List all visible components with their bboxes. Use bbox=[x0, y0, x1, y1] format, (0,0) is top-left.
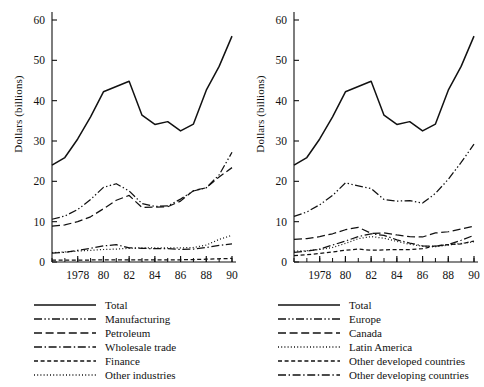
legend-label: Other developed countries bbox=[340, 354, 465, 368]
plot-area-left: 01020304050601978808284868890 bbox=[0, 0, 242, 292]
y-tick-label: 20 bbox=[34, 175, 46, 187]
legend-item: Finance bbox=[34, 354, 242, 368]
x-tick-label: 1978 bbox=[66, 269, 89, 281]
y-tick-label: 40 bbox=[276, 95, 288, 107]
y-tick-label: 20 bbox=[276, 175, 288, 187]
legend-label: Total bbox=[96, 298, 127, 312]
x-tick-label: 86 bbox=[175, 269, 187, 281]
x-tick-label: 86 bbox=[417, 269, 429, 281]
legend-label: Wholesale trade bbox=[96, 340, 176, 354]
legend-item: Latin America bbox=[278, 340, 484, 354]
legend-label: Other industries bbox=[96, 368, 176, 382]
y-tick-label: 0 bbox=[39, 256, 45, 268]
y-tick-label: 10 bbox=[34, 216, 46, 228]
legend-swatch bbox=[34, 298, 96, 312]
plot-area-right: 01020304050601978808284868890 bbox=[242, 0, 484, 292]
y-tick-label: 30 bbox=[276, 135, 288, 147]
legend-item: Europe bbox=[278, 312, 484, 326]
series-line bbox=[52, 168, 232, 226]
legend-left: TotalManufacturingPetroleumWholesale tra… bbox=[34, 298, 242, 382]
legend-label: Total bbox=[340, 298, 371, 312]
x-tick-label: 88 bbox=[443, 269, 455, 281]
legend-item: Wholesale trade bbox=[34, 340, 242, 354]
legend-swatch bbox=[34, 368, 96, 382]
x-tick-label: 84 bbox=[149, 269, 161, 281]
y-tick-label: 0 bbox=[281, 256, 287, 268]
y-tick-label: 30 bbox=[34, 135, 46, 147]
legend-item: Canada bbox=[278, 326, 484, 340]
x-tick-label: 90 bbox=[468, 269, 480, 281]
legend-label: Latin America bbox=[340, 340, 412, 354]
legend-item: Other developing countries bbox=[278, 368, 484, 382]
legend-swatch bbox=[278, 354, 340, 368]
x-tick-label: 84 bbox=[391, 269, 403, 281]
y-tick-label: 10 bbox=[276, 216, 288, 228]
legend-label: Canada bbox=[340, 326, 382, 340]
legend-item: Other developed countries bbox=[278, 354, 484, 368]
x-tick-label: 82 bbox=[123, 269, 135, 281]
x-tick-label: 80 bbox=[340, 269, 352, 281]
series-line bbox=[294, 36, 474, 165]
x-tick-label: 80 bbox=[98, 269, 110, 281]
legend-label: Petroleum bbox=[96, 326, 150, 340]
legend-swatch bbox=[278, 368, 340, 382]
y-tick-label: 50 bbox=[276, 54, 288, 66]
legend-swatch bbox=[278, 298, 340, 312]
legend-label: Finance bbox=[96, 354, 140, 368]
series-line bbox=[294, 237, 474, 252]
legend-item: Petroleum bbox=[34, 326, 242, 340]
legend-label: Europe bbox=[340, 312, 381, 326]
series-line bbox=[294, 241, 474, 256]
series-line bbox=[52, 36, 232, 165]
y-tick-label: 60 bbox=[276, 14, 288, 26]
y-tick-label: 50 bbox=[34, 54, 46, 66]
series-line bbox=[52, 235, 232, 252]
legend-swatch bbox=[278, 312, 340, 326]
chart-panel-right: Dollars (billions) 010203040506019788082… bbox=[242, 0, 484, 387]
legend-swatch bbox=[34, 312, 96, 326]
series-line bbox=[294, 226, 474, 239]
x-tick-label: 82 bbox=[365, 269, 377, 281]
legend-swatch bbox=[34, 326, 96, 340]
legend-right: TotalEuropeCanadaLatin AmericaOther deve… bbox=[278, 298, 484, 382]
series-line bbox=[52, 152, 232, 219]
legend-item: Total bbox=[34, 298, 242, 312]
legend-item: Other industries bbox=[34, 368, 242, 382]
legend-label: Other developing countries bbox=[340, 368, 469, 382]
legend-item: Total bbox=[278, 298, 484, 312]
legend-item: Manufacturing bbox=[34, 312, 242, 326]
legend-swatch bbox=[34, 340, 96, 354]
x-tick-label: 1978 bbox=[308, 269, 331, 281]
y-tick-label: 40 bbox=[34, 95, 46, 107]
chart-panel-left: Dollars (billions) 010203040506019788082… bbox=[0, 0, 242, 387]
x-tick-label: 88 bbox=[201, 269, 213, 281]
legend-swatch bbox=[278, 340, 340, 354]
figure-root: Dollars (billions) 010203040506019788082… bbox=[0, 0, 484, 387]
x-tick-label: 90 bbox=[226, 269, 238, 281]
y-tick-label: 60 bbox=[34, 14, 46, 26]
series-line bbox=[294, 144, 474, 216]
legend-label: Manufacturing bbox=[96, 312, 170, 326]
legend-swatch bbox=[34, 354, 96, 368]
legend-swatch bbox=[278, 326, 340, 340]
